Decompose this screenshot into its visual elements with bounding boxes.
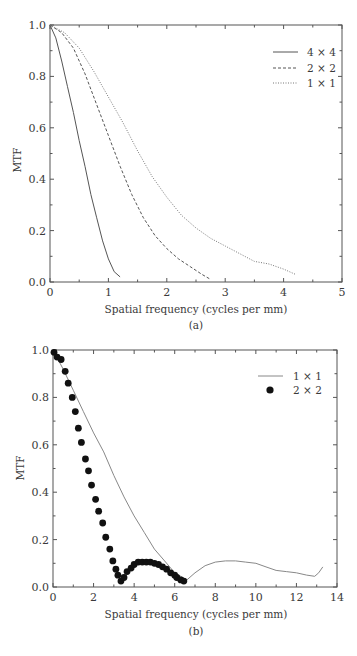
- y-tick-label: 0.6: [32, 439, 50, 452]
- data-point: [65, 380, 72, 387]
- caption-b: (b): [189, 625, 204, 637]
- legend-label-1x1: 1 × 1: [307, 77, 336, 89]
- y-tick-label: 0.4: [32, 486, 50, 499]
- figure: 0123450.00.20.40.60.81.0 4 × 4 2 × 2 1 ×…: [0, 0, 357, 656]
- x-tick-label: 12: [289, 591, 303, 604]
- x-tick-label: 0: [47, 286, 54, 299]
- y-tick-label: 0.0: [29, 276, 47, 289]
- legend-label-2x2-b: 2 × 2: [293, 384, 322, 396]
- legend-b: 1 × 1 2 × 2: [258, 370, 322, 396]
- data-point: [99, 520, 106, 527]
- series-line: [50, 25, 120, 277]
- data-point: [75, 425, 82, 432]
- y-tick-label: 0.2: [29, 225, 47, 238]
- x-axis-label-b: Spatial frequency (cycles per mm): [105, 608, 288, 620]
- series-line: [53, 350, 323, 580]
- x-tick-label: 4: [280, 286, 287, 299]
- data-point: [95, 508, 102, 515]
- x-tick-label: 3: [222, 286, 229, 299]
- data-point: [115, 572, 122, 579]
- axis-ticks-b: 024681012140.00.20.40.60.81.0: [32, 344, 345, 604]
- legend-label-2x2: 2 × 2: [307, 62, 336, 74]
- x-tick-label: 10: [249, 591, 263, 604]
- data-point: [92, 496, 99, 503]
- series-line: [50, 25, 295, 274]
- legend-label-4x4: 4 × 4: [307, 46, 336, 58]
- x-tick-label: 6: [171, 591, 178, 604]
- y-axis-label-b: MTF: [14, 455, 26, 480]
- data-point: [69, 394, 76, 401]
- data-point: [109, 558, 116, 565]
- data-point: [58, 356, 65, 363]
- data-point: [62, 368, 69, 375]
- y-tick-label: 0.4: [29, 173, 47, 186]
- x-tick-label: 4: [131, 591, 138, 604]
- y-tick-label: 0.6: [29, 122, 47, 135]
- legend-label-1x1-b: 1 × 1: [293, 370, 322, 382]
- x-tick-label: 5: [339, 286, 346, 299]
- y-tick-label: 0.8: [29, 70, 47, 83]
- x-tick-label: 2: [90, 591, 97, 604]
- caption-a: (a): [189, 319, 203, 331]
- data-point: [106, 546, 113, 553]
- x-tick-label: 1: [105, 286, 112, 299]
- chart-panel-b: 024681012140.00.20.40.60.81.0 1 × 1 2 × …: [14, 344, 344, 637]
- y-tick-label: 0.8: [32, 391, 50, 404]
- plot-frame-a: [50, 25, 342, 282]
- x-tick-label: 2: [163, 286, 170, 299]
- y-tick-label: 0.2: [32, 534, 50, 547]
- legend-swatch-marker: [266, 386, 273, 393]
- legend-a: 4 × 4 2 × 2 1 × 1: [273, 46, 336, 89]
- y-axis-label-a: MTF: [11, 147, 23, 172]
- x-tick-label: 0: [50, 591, 57, 604]
- y-tick-label: 0.0: [32, 581, 50, 594]
- x-tick-label: 8: [212, 591, 219, 604]
- data-point: [85, 467, 92, 474]
- data-point: [121, 574, 128, 581]
- series-lines-b: [51, 349, 323, 585]
- x-axis-label-a: Spatial frequency (cycles per mm): [105, 303, 288, 315]
- y-tick-label: 1.0: [29, 19, 47, 32]
- x-tick-label: 14: [330, 591, 344, 604]
- data-point: [102, 534, 109, 541]
- data-point: [88, 482, 95, 489]
- y-tick-label: 1.0: [32, 344, 50, 357]
- data-point: [82, 456, 89, 463]
- data-point: [78, 439, 85, 446]
- series-line: [50, 25, 211, 279]
- data-point: [72, 408, 79, 415]
- series-lines-a: [50, 25, 295, 279]
- axis-ticks-a: 0123450.00.20.40.60.81.0: [29, 19, 346, 299]
- chart-panel-a: 0123450.00.20.40.60.81.0 4 × 4 2 × 2 1 ×…: [11, 19, 346, 331]
- data-point: [180, 578, 187, 585]
- data-point: [112, 566, 119, 573]
